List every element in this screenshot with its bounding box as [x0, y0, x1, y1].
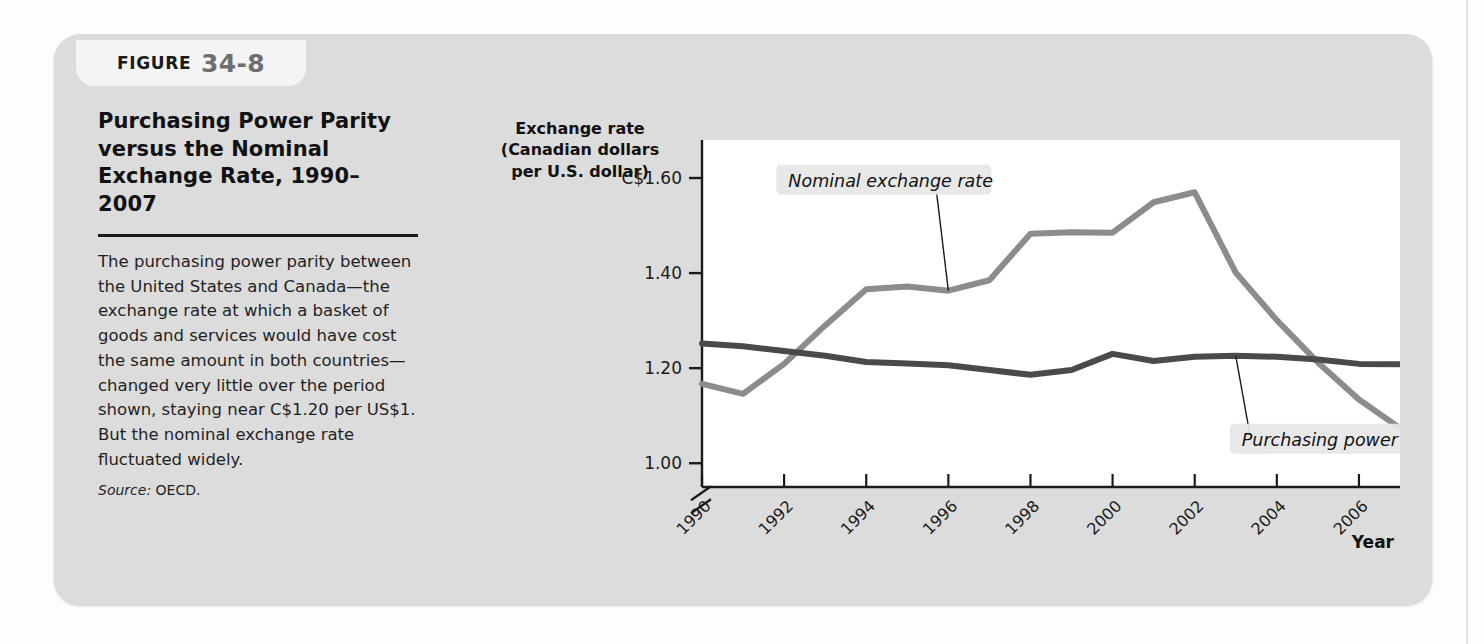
- x-tick-label: 1994: [837, 496, 879, 538]
- chart-container: Exchange rate (Canadian dollars per U.S.…: [440, 108, 1400, 578]
- annotation-label: Purchasing power parity: [1242, 430, 1400, 450]
- x-tick-label: 2002: [1165, 496, 1207, 538]
- line-chart: C$1.601.401.201.00 199019921994199619982…: [440, 108, 1400, 578]
- x-tick-label: 1990: [673, 496, 715, 538]
- page-root: FIGURE 34-8 Purchasing Power Parity vers…: [0, 0, 1484, 644]
- y-tick-label: 1.00: [644, 453, 682, 473]
- source-label: Source:: [98, 482, 151, 498]
- y-axis-ticks: C$1.601.401.201.00: [621, 168, 702, 473]
- figure-number: 34-8: [201, 49, 265, 78]
- x-tick-label: 1998: [1001, 496, 1043, 538]
- y-tick-label: 1.40: [644, 263, 682, 283]
- figure-label-word: FIGURE: [117, 53, 191, 73]
- caption-source: Source: OECD.: [98, 482, 418, 498]
- caption-body-text: The purchasing power parity between the …: [98, 250, 418, 473]
- x-tick-label: 2004: [1247, 496, 1289, 538]
- x-tick-label: 2000: [1083, 496, 1125, 538]
- figure-number-tab: FIGURE 34-8: [76, 40, 306, 86]
- figure-caption: Purchasing Power Parity versus the Nomin…: [98, 108, 418, 498]
- page-right-rule: [1466, 0, 1468, 644]
- y-tick-label: 1.20: [644, 358, 682, 378]
- y-tick-label: C$1.60: [621, 168, 682, 188]
- caption-divider: [98, 234, 418, 237]
- source-value: OECD.: [156, 482, 201, 498]
- x-tick-label: 1992: [755, 496, 797, 538]
- x-axis-title: Year: [1352, 532, 1394, 552]
- annotation-label: Nominal exchange rate: [788, 171, 993, 191]
- caption-title: Purchasing Power Parity versus the Nomin…: [98, 108, 418, 219]
- x-tick-label: 1996: [919, 496, 961, 538]
